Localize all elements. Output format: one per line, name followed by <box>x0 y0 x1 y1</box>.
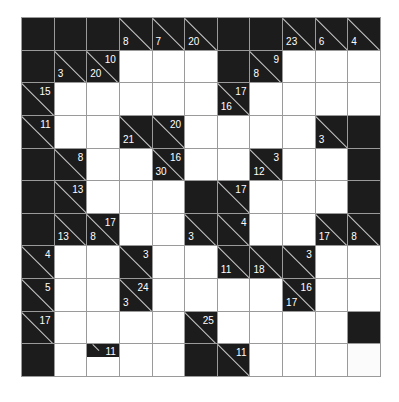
clue-cell: 17 <box>218 181 250 213</box>
clue-cell: 13 <box>55 214 87 246</box>
entry-cell[interactable] <box>348 344 380 376</box>
across-sum: 3 <box>143 250 149 260</box>
entry-cell[interactable] <box>348 246 380 278</box>
entry-cell[interactable] <box>218 312 250 344</box>
across-sum: 17 <box>40 316 51 326</box>
entry-cell[interactable] <box>316 246 348 278</box>
entry-cell[interactable] <box>55 116 87 148</box>
entry-cell[interactable] <box>348 279 380 311</box>
entry-cell[interactable] <box>283 312 315 344</box>
entry-cell[interactable] <box>87 83 119 115</box>
entry-cell[interactable] <box>87 149 119 181</box>
blocked-cell <box>250 18 282 50</box>
entry-cell[interactable] <box>120 344 152 376</box>
clue-cell: 17 <box>22 312 54 344</box>
entry-cell[interactable] <box>250 83 282 115</box>
entry-cell[interactable] <box>87 116 119 148</box>
entry-cell[interactable] <box>283 149 315 181</box>
blocked-cell <box>185 181 217 213</box>
down-sum: 17 <box>286 298 297 308</box>
clue-cell: 3 <box>283 246 315 278</box>
clue-cell: 8 <box>55 149 87 181</box>
entry-cell[interactable] <box>316 149 348 181</box>
entry-cell[interactable] <box>283 116 315 148</box>
entry-cell[interactable] <box>120 214 152 246</box>
entry-cell[interactable] <box>87 312 119 344</box>
entry-cell[interactable] <box>283 181 315 213</box>
entry-cell[interactable] <box>120 83 152 115</box>
entry-cell[interactable] <box>87 279 119 311</box>
entry-cell[interactable] <box>153 312 185 344</box>
entry-cell[interactable] <box>348 83 380 115</box>
entry-cell[interactable] <box>153 83 185 115</box>
entry-cell[interactable] <box>185 279 217 311</box>
entry-cell[interactable] <box>55 344 87 376</box>
entry-cell[interactable] <box>316 83 348 115</box>
entry-cell[interactable] <box>153 51 185 83</box>
entry-cell[interactable] <box>218 279 250 311</box>
entry-cell[interactable] <box>185 246 217 278</box>
entry-cell[interactable] <box>316 51 348 83</box>
entry-cell[interactable] <box>316 279 348 311</box>
entry-cell[interactable] <box>283 83 315 115</box>
entry-cell[interactable] <box>185 149 217 181</box>
entry-cell[interactable] <box>120 181 152 213</box>
across-sum: 17 <box>105 218 116 228</box>
entry-cell[interactable] <box>153 246 185 278</box>
entry-cell[interactable] <box>55 312 87 344</box>
blocked-cell <box>218 51 250 83</box>
entry-cell[interactable] <box>316 312 348 344</box>
entry-cell[interactable] <box>55 83 87 115</box>
entry-cell[interactable] <box>120 51 152 83</box>
entry-cell[interactable] <box>185 83 217 115</box>
entry-cell[interactable] <box>250 279 282 311</box>
entry-cell[interactable] <box>153 214 185 246</box>
across-sum: 9 <box>274 55 280 65</box>
down-sum: 23 <box>286 37 297 47</box>
down-sum: 8 <box>351 232 357 242</box>
across-sum: 10 <box>105 55 116 65</box>
entry-cell[interactable] <box>250 312 282 344</box>
entry-cell[interactable] <box>218 116 250 148</box>
across-sum: 16 <box>170 153 181 163</box>
clue-cell: 1630 <box>153 149 185 181</box>
blocked-cell <box>22 51 54 83</box>
down-sum: 13 <box>58 232 69 242</box>
entry-cell[interactable] <box>283 344 315 376</box>
entry-cell[interactable] <box>250 181 282 213</box>
across-sum: 20 <box>170 120 181 130</box>
clue-cell: 17 <box>316 214 348 246</box>
entry-cell[interactable] <box>87 181 119 213</box>
clue-cell: 21 <box>120 116 152 148</box>
entry-cell[interactable] <box>348 51 380 83</box>
entry-cell[interactable] <box>283 51 315 83</box>
entry-cell[interactable] <box>185 116 217 148</box>
entry-cell[interactable] <box>153 279 185 311</box>
blocked-cell <box>185 344 217 376</box>
entry-cell[interactable] <box>153 344 185 376</box>
entry-cell[interactable] <box>250 344 282 376</box>
entry-cell[interactable] <box>87 246 119 278</box>
entry-cell[interactable] <box>316 344 348 376</box>
down-sum: 16 <box>221 102 232 112</box>
entry-cell[interactable] <box>55 279 87 311</box>
entry-cell[interactable] <box>218 149 250 181</box>
entry-cell[interactable] <box>250 214 282 246</box>
entry-cell[interactable] <box>283 214 315 246</box>
down-sum: 3 <box>123 298 129 308</box>
entry-cell[interactable] <box>55 246 87 278</box>
down-sum: 11 <box>221 265 231 275</box>
entry-cell[interactable] <box>185 51 217 83</box>
clue-cell: 11 <box>87 344 119 376</box>
entry-cell[interactable] <box>316 181 348 213</box>
down-sum: 20 <box>90 69 101 79</box>
entry-cell[interactable] <box>250 116 282 148</box>
clue-cell: 11 <box>22 116 54 148</box>
entry-cell[interactable] <box>120 149 152 181</box>
clue-cell: 8 <box>348 214 380 246</box>
entry-cell[interactable] <box>120 312 152 344</box>
entry-cell[interactable] <box>153 181 185 213</box>
across-sum: 11 <box>106 347 116 357</box>
clue-cell: 20 <box>185 18 217 50</box>
blocked-cell <box>22 18 54 50</box>
